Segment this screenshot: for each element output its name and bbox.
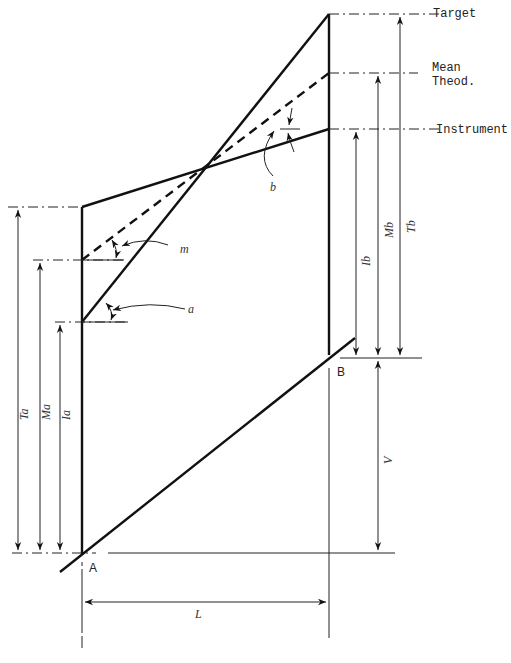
- ground-line: [60, 338, 355, 572]
- label-v: V: [381, 455, 395, 464]
- angle-b-arc-top: [289, 108, 292, 125]
- mean-theodolite-line: [82, 73, 329, 260]
- label-angle-m: m: [180, 242, 189, 256]
- angle-b-leader: [264, 131, 274, 176]
- label-point-a: A: [89, 561, 97, 575]
- label-target: Target: [433, 7, 476, 21]
- leveling-diagram: Target Mean Theod. Instrument a m b Ta M…: [0, 0, 511, 663]
- label-mb: Mb: [382, 222, 396, 239]
- label-point-b: B: [337, 365, 345, 379]
- label-ib: Ib: [359, 256, 373, 267]
- label-mean: Mean: [432, 61, 461, 75]
- label-angle-a: a: [188, 302, 194, 316]
- label-ia: Ia: [59, 410, 73, 421]
- label-l: L: [194, 607, 202, 621]
- angle-m-arc: [112, 240, 117, 258]
- label-instrument: Instrument: [436, 123, 508, 137]
- label-ma: Ma: [39, 404, 53, 421]
- angle-a-leader: [113, 305, 185, 310]
- label-theod: Theod.: [432, 75, 475, 89]
- angle-a-arc: [106, 303, 112, 320]
- label-angle-b: b: [270, 180, 276, 194]
- label-tb: Tb: [404, 220, 418, 233]
- label-ta: Ta: [17, 408, 31, 420]
